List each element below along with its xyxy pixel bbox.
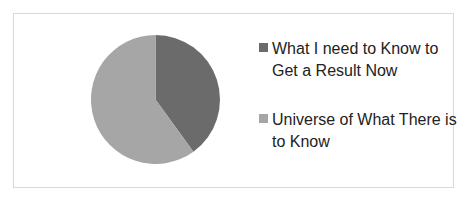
legend-item-need-to-know: What I need to Know to Get a Result Now [257,38,457,82]
legend-swatch-light [259,114,268,123]
legend-label: Universe of What There is to Know [272,111,457,150]
legend-swatch-dark [259,43,268,52]
legend-item-universe: Universe of What There is to Know [257,109,457,153]
legend-label: What I need to Know to Get a Result Now [272,40,438,79]
chart-legend: What I need to Know to Get a Result Now … [257,38,457,180]
pie-chart [90,34,221,165]
